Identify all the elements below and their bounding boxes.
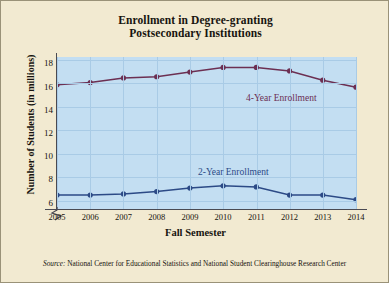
gridline-horizontal — [57, 201, 357, 202]
plot-area — [57, 57, 357, 209]
series-label-4-year: 4-Year Enrollment — [246, 93, 317, 103]
gridline-horizontal — [57, 130, 357, 131]
gridline-vertical — [356, 57, 357, 209]
gridline-vertical — [90, 57, 91, 209]
gridline-vertical — [123, 57, 124, 209]
y-axis-title: Number of Students (in millions) — [25, 40, 36, 210]
gridline-vertical — [290, 57, 291, 209]
x-axis-line — [45, 209, 367, 210]
gridline-vertical — [257, 57, 258, 209]
series-label-2-year: 2-Year Enrollment — [198, 167, 269, 177]
gridline-horizontal — [57, 107, 357, 108]
gridline-vertical — [223, 57, 224, 209]
source-label: Source: — [43, 259, 65, 268]
series-layer — [57, 57, 357, 209]
chart-title-line-1: Enrollment in Degree-granting — [1, 14, 389, 27]
chart-title: Enrollment in Degree-granting Postsecond… — [1, 14, 389, 40]
gridline-horizontal — [57, 60, 357, 61]
chart-figure: Enrollment in Degree-granting Postsecond… — [0, 0, 389, 283]
chart-title-line-2: Postsecondary Institutions — [1, 27, 389, 40]
gridline-vertical — [157, 57, 158, 209]
series-line — [57, 186, 356, 200]
source-note: Source: National Center for Educational … — [43, 259, 346, 268]
source-text: National Center for Educational Statisti… — [65, 259, 346, 268]
x-axis-title: Fall Semester — [1, 227, 389, 238]
gridline-horizontal — [57, 83, 357, 84]
gridline-horizontal — [57, 154, 357, 155]
x-tick-label: 2014 — [336, 212, 376, 222]
series-line — [57, 67, 356, 87]
y-axis-line — [56, 53, 57, 211]
gridline-vertical — [190, 57, 191, 209]
gridline-horizontal — [57, 177, 357, 178]
gridline-vertical — [323, 57, 324, 209]
